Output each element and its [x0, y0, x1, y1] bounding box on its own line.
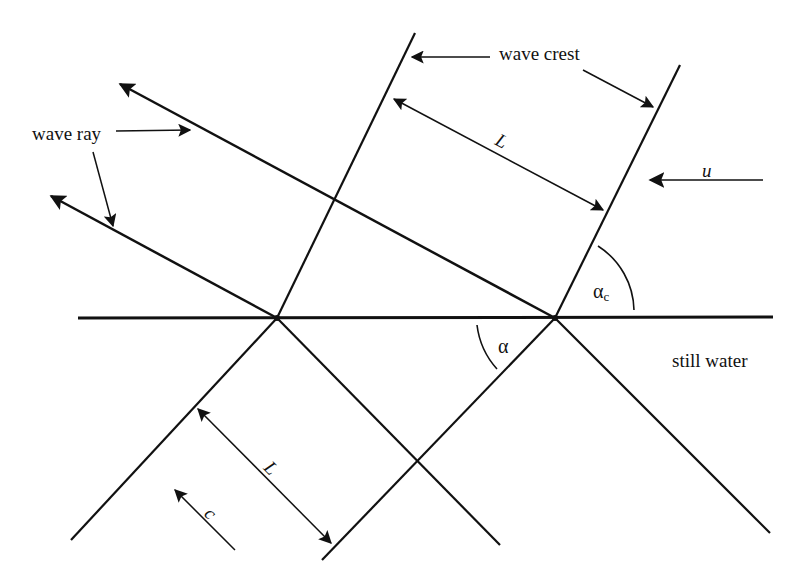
wave-ray-lower	[51, 196, 277, 318]
label-current-velocity: u	[702, 160, 712, 181]
vertex-left	[274, 315, 280, 321]
label-angle-alpha: α	[498, 335, 509, 357]
label-phase-speed: c	[200, 503, 221, 524]
wavelength-arrow-upper	[394, 99, 603, 210]
wave-crest-right-lower	[322, 318, 555, 560]
wave-refraction-diagram: wave crest wave ray L u αc α still water…	[0, 0, 803, 587]
wave-ray-lower-continued	[277, 318, 500, 545]
vertex-right	[552, 315, 558, 321]
label-wavelength-lower: L	[259, 456, 282, 479]
wave-crest-left-lower	[71, 318, 277, 540]
interface-line	[78, 317, 773, 318]
wave-crest-left-upper	[277, 33, 415, 318]
label-angle-alpha-c: αc	[593, 280, 609, 304]
label-still-water: still water	[672, 350, 748, 371]
angle-arc-alpha	[477, 325, 497, 369]
wave-crest-right-upper	[555, 65, 680, 318]
pointer-wave-ray-lower	[93, 152, 113, 226]
wave-ray-upper	[120, 84, 555, 318]
label-wave-crest: wave crest	[499, 43, 580, 64]
label-wave-ray: wave ray	[32, 123, 102, 144]
pointer-wave-ray-upper	[116, 130, 190, 131]
pointer-wave-crest-right	[583, 70, 653, 107]
label-wavelength-upper: L	[491, 129, 511, 153]
